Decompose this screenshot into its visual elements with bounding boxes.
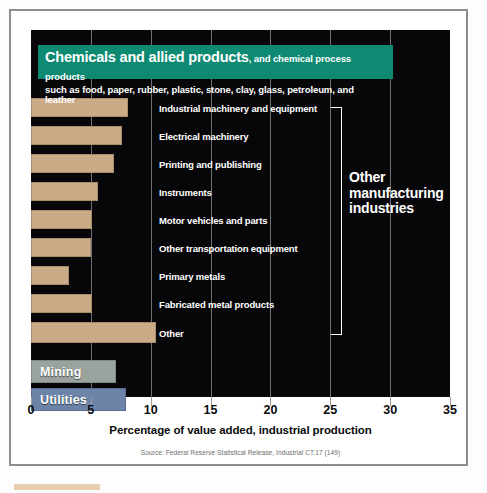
bar xyxy=(31,182,98,201)
other-manufacturing-bracket xyxy=(331,107,342,335)
bar-label: Electrical machinery xyxy=(159,130,248,141)
other-manufacturing-line-2: manufacturing xyxy=(349,185,444,201)
bar-row: Other transportation equipment xyxy=(31,238,450,257)
bar-row: Other xyxy=(31,322,450,343)
x-tick-label-25: 25 xyxy=(323,403,337,417)
banner-title-strong: Chemicals and allied products xyxy=(45,49,249,65)
bar-row: Fabricated metal products xyxy=(31,294,450,313)
bar-label: Mining xyxy=(40,365,81,379)
page-edge-sliver xyxy=(14,484,100,490)
bar-label: Primary metals xyxy=(159,270,225,281)
bar-label: Other xyxy=(159,327,184,338)
other-manufacturing-annotation: Other manufacturing industries xyxy=(349,170,444,217)
chart-page: Industrial machinery and equipmentElectr… xyxy=(0,0,487,493)
x-tick-label-5: 5 xyxy=(87,403,94,417)
other-manufacturing-line-1: Other xyxy=(349,169,385,185)
bar xyxy=(31,238,91,257)
bar-row: Primary metals xyxy=(31,266,450,285)
bar xyxy=(31,210,92,229)
bar xyxy=(31,294,92,313)
bar xyxy=(31,126,122,145)
bar-label: Motor vehicles and parts xyxy=(159,214,267,225)
banner-subtitle: such as food, paper, rubber, plastic, st… xyxy=(45,85,386,106)
bar xyxy=(31,266,69,285)
bar xyxy=(31,322,156,343)
x-tick-label-15: 15 xyxy=(204,403,218,417)
x-tick-label-20: 20 xyxy=(263,403,277,417)
x-axis-ticks xyxy=(0,397,487,409)
bar: Mining xyxy=(31,360,116,383)
bar-label: Instruments xyxy=(159,186,212,197)
chart-title-banner: Chemicals and allied products, and chemi… xyxy=(38,45,393,79)
x-tick-label-35: 35 xyxy=(443,403,457,417)
bar-label: Printing and publishing xyxy=(159,158,262,169)
x-axis-title: Percentage of value added, industrial pr… xyxy=(31,424,450,436)
bar-row: Electrical machinery xyxy=(31,126,450,145)
x-tick-label-30: 30 xyxy=(383,403,397,417)
bar-label: Other transportation equipment xyxy=(159,242,298,253)
x-tick-label-10: 10 xyxy=(144,403,158,417)
bar-row: Mining xyxy=(31,360,450,383)
bar-label: Fabricated metal products xyxy=(159,298,274,309)
other-manufacturing-line-3: industries xyxy=(349,200,414,216)
bar xyxy=(31,154,114,173)
source-note: Source: Federal Reserve Statistical Rele… xyxy=(31,449,450,456)
x-tick-label-0: 0 xyxy=(28,403,35,417)
